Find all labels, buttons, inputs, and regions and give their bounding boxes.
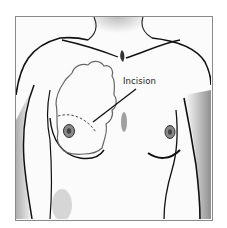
- left-arm-shading: [16, 85, 34, 219]
- left-clavicle: [62, 40, 118, 57]
- incision-label: Incision: [123, 76, 156, 86]
- lower-left-shading: [52, 189, 72, 221]
- left-torso-outline: [47, 90, 51, 219]
- right-nipple-center: [168, 129, 172, 135]
- neck-left-outline: [88, 17, 96, 40]
- sternal-notch: [120, 50, 124, 62]
- excision-area-outline: [56, 61, 116, 154]
- chest-illustration: [0, 0, 227, 228]
- right-clavicle: [126, 40, 180, 58]
- neck-shading: [92, 8, 144, 36]
- right-arm-shading: [185, 90, 211, 219]
- sternum-shading: [121, 112, 127, 132]
- left-nipple-center: [67, 128, 71, 134]
